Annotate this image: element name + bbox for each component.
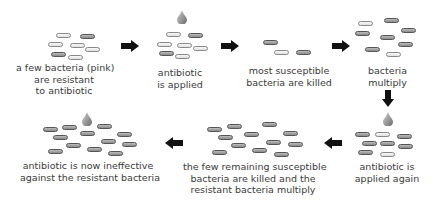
bacterium-resistant xyxy=(274,50,289,55)
bacterium-susceptible xyxy=(262,122,277,127)
arrow-left-icon xyxy=(324,137,342,149)
bacterium-resistant xyxy=(175,54,190,59)
bacterium-susceptible xyxy=(266,140,281,145)
stage-7-label: antibiotic is now ineffective against th… xyxy=(20,160,156,183)
bacterium-susceptible xyxy=(218,135,233,140)
stage-2-label: antibiotic is applied xyxy=(145,67,215,90)
bacterium-susceptible xyxy=(398,42,413,47)
bacterium-resistant xyxy=(85,47,100,52)
bacterium-susceptible xyxy=(380,141,395,146)
stage-3-label: most susceptible bacteria are killed xyxy=(245,65,333,88)
bacterium-resistant xyxy=(380,152,395,157)
bacterium-resistant xyxy=(166,32,181,37)
arrow-down-icon xyxy=(382,90,394,107)
bacterium-resistant xyxy=(193,46,208,51)
stage-5-label: antibiotic is applied again xyxy=(352,161,422,184)
bacterium-susceptible xyxy=(398,144,413,149)
antibiotic-drop-icon xyxy=(383,112,393,126)
bacterium-susceptible xyxy=(87,147,102,152)
bacterium-resistant xyxy=(48,42,63,47)
bacterium-susceptible xyxy=(384,18,399,23)
bacterium-susceptible xyxy=(212,150,227,155)
bacterium-susceptible xyxy=(108,151,123,156)
stage-6-label: the few remaining susceptible bacteria a… xyxy=(183,161,323,196)
bacterium-resistant xyxy=(68,55,83,60)
bacterium-susceptible xyxy=(263,40,278,45)
bacterium-resistant xyxy=(157,42,172,47)
arrow-right-icon xyxy=(121,40,139,52)
bacterium-susceptible xyxy=(122,142,137,147)
bacterium-susceptible xyxy=(283,131,298,136)
arrow-left-icon xyxy=(165,137,183,149)
bacterium-susceptible xyxy=(252,148,267,153)
bacterium-resistant xyxy=(375,132,390,137)
bacterium-susceptible xyxy=(80,34,95,39)
bacterium-susceptible xyxy=(117,132,132,137)
bacterium-susceptible xyxy=(296,50,311,55)
bacterium-susceptible xyxy=(188,33,203,38)
bacterium-susceptible xyxy=(397,134,412,139)
bacterium-susceptible xyxy=(365,47,380,52)
bacterium-susceptible xyxy=(362,141,377,146)
bacterium-susceptible xyxy=(274,152,289,157)
bacterium-susceptible xyxy=(355,132,370,137)
bacterium-susceptible xyxy=(97,124,112,129)
bacterium-resistant xyxy=(70,43,85,48)
bacterium-susceptible xyxy=(66,143,81,148)
bacterium-susceptible xyxy=(231,143,246,148)
bacterium-susceptible xyxy=(53,135,68,140)
bacterium-resistant xyxy=(358,21,373,26)
bacterium-susceptible xyxy=(358,150,373,155)
bacterium-resistant xyxy=(386,52,401,57)
bacterium-susceptible xyxy=(51,52,66,57)
bacterium-susceptible xyxy=(244,132,259,137)
stage-1-label: a few bacteria (pink) are resistant to a… xyxy=(16,62,112,97)
bacterium-susceptible xyxy=(43,127,58,132)
arrow-right-icon xyxy=(221,40,239,52)
bacterium-susceptible xyxy=(380,35,395,40)
bacterium-susceptible xyxy=(62,125,77,130)
bacterium-susceptible xyxy=(80,131,95,136)
arrow-right-icon xyxy=(332,40,350,52)
bacterium-susceptible xyxy=(355,31,370,36)
antibiotic-drop-icon xyxy=(82,112,92,126)
bacterium-susceptible xyxy=(207,127,222,132)
bacterium-susceptible xyxy=(401,28,416,33)
stage-4-label: bacteria multiply xyxy=(355,65,420,88)
bacterium-susceptible xyxy=(48,149,63,154)
bacterium-susceptible xyxy=(288,142,303,147)
bacterium-resistant xyxy=(177,43,192,48)
bacterium-susceptible xyxy=(159,51,174,56)
antibiotic-drop-icon xyxy=(177,10,187,24)
bacterium-resistant xyxy=(56,33,71,38)
bacterium-susceptible xyxy=(227,124,242,129)
bacterium-susceptible xyxy=(101,139,116,144)
